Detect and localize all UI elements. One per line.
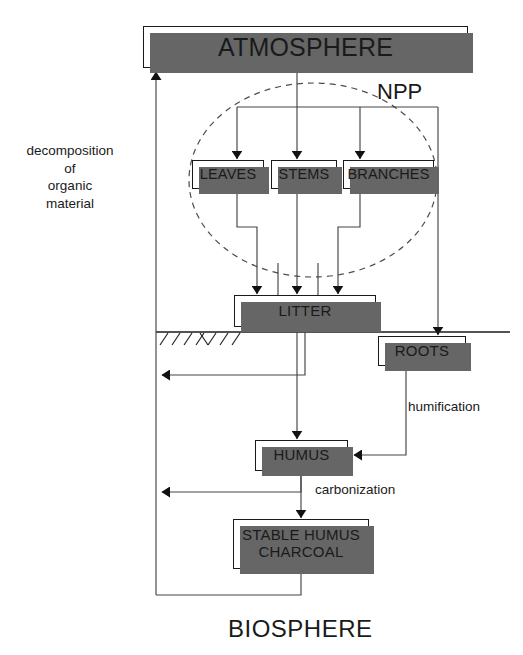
box-humus[interactable]: HUMUS [255, 440, 348, 471]
box-humus-label: HUMUS [274, 447, 330, 464]
box-atmosphere-label: ATMOSPHERE [218, 33, 393, 61]
box-stems[interactable]: STEMS [271, 160, 337, 189]
box-litter[interactable]: LITTER [234, 295, 376, 327]
box-stable-humus-line1: STABLE HUMUS [242, 527, 360, 544]
box-litter-label: LITTER [279, 303, 332, 320]
box-stems-label: STEMS [279, 166, 330, 182]
box-roots-label: ROOTS [395, 343, 449, 360]
box-stable-humus-line2: CHARCOAL [259, 544, 344, 561]
link-roots-to-humus [354, 366, 406, 455]
box-stable-humus-charcoal[interactable]: STABLE HUMUS CHARCOAL [233, 519, 369, 569]
diagram-canvas: ATMOSPHERE LEAVES STEMS BRANCHES LITTER … [0, 0, 523, 655]
link-branches-to-litter [338, 189, 360, 294]
link-litter-to-return-trunk [162, 327, 305, 375]
box-roots[interactable]: ROOTS [378, 336, 466, 366]
label-carbonization: carbonization [315, 481, 395, 499]
label-decomposition-of-organic-material: decomposition of organic material [22, 142, 118, 212]
box-leaves-label: LEAVES [200, 166, 257, 182]
link-leaves-to-litter [237, 189, 257, 294]
box-atmosphere[interactable]: ATMOSPHERE [143, 26, 468, 68]
box-branches-label: BRANCHES [347, 166, 429, 182]
box-branches[interactable]: BRANCHES [343, 160, 434, 189]
label-npp: NPP [377, 78, 422, 107]
soil-hatching [160, 333, 240, 345]
box-leaves[interactable]: LEAVES [192, 160, 264, 189]
label-humification: humification [408, 398, 480, 416]
label-biosphere: BIOSPHERE [228, 613, 373, 644]
